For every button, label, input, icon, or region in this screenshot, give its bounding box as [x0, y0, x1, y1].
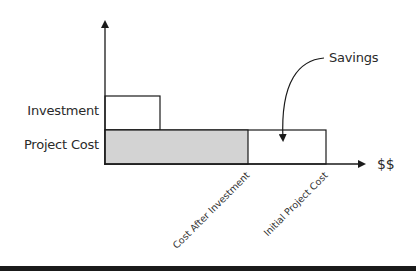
- diagram-graphics: [0, 0, 416, 271]
- savings-diagram: Investment Project Cost $$ Savings Cost …: [0, 0, 416, 271]
- cost-after-investment-bar: [105, 130, 248, 164]
- investment-bar: [105, 96, 160, 130]
- savings-annotation: Savings: [329, 50, 378, 65]
- x-axis-label: $$: [377, 156, 394, 172]
- savings-arrow: [283, 58, 324, 140]
- bottom-border: [0, 266, 416, 271]
- y-label-project-cost: Project Cost: [24, 137, 99, 152]
- y-label-investment: Investment: [27, 103, 99, 118]
